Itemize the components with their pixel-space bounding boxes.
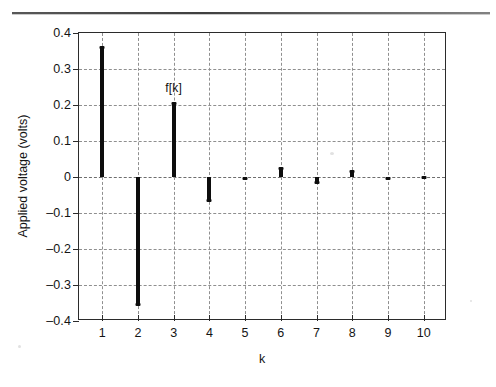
series-annotation-label: f[k] (165, 81, 182, 95)
gridline-horizontal (79, 69, 445, 70)
stem-bar (136, 177, 140, 305)
y-tick-label: –0.2 (46, 242, 71, 256)
gridline-horizontal (79, 285, 445, 286)
gridline-horizontal (79, 105, 445, 106)
x-tick (281, 315, 282, 321)
y-tick (73, 249, 79, 250)
x-tick (317, 315, 318, 321)
gridline-vertical (388, 33, 389, 319)
y-tick (73, 321, 79, 322)
x-tick (424, 315, 425, 321)
gridline-horizontal (79, 249, 445, 250)
scan-speckle (330, 152, 334, 155)
stem-marker (207, 199, 212, 202)
figure-page: Applied voltage (volts) f[k] 0.40.30.20.… (0, 0, 496, 387)
x-axis-title: k (78, 352, 446, 366)
x-tick-label: 1 (99, 326, 106, 340)
x-tick-label: 4 (206, 326, 213, 340)
x-tick-label: 9 (385, 326, 392, 340)
y-tick (73, 33, 79, 34)
y-tick-label: 0.4 (53, 26, 71, 40)
stem-bar (100, 47, 104, 177)
x-tick (209, 315, 210, 321)
stem-marker (135, 303, 140, 306)
stem-marker (314, 181, 319, 184)
plot-area: f[k] 0.40.30.20.10–0.1–0.2–0.3–0.4 12345… (78, 32, 446, 320)
stem-marker (350, 170, 355, 173)
y-tick-label: 0.1 (53, 134, 71, 148)
y-tick-label: 0 (64, 170, 71, 184)
y-tick-label: –0.3 (46, 278, 71, 292)
gridline-horizontal (79, 141, 445, 142)
stem-marker (171, 102, 176, 105)
x-tick-label: 6 (277, 326, 284, 340)
y-tick-label: –0.1 (46, 206, 71, 220)
x-tick (138, 315, 139, 321)
gridline-vertical (209, 33, 210, 319)
y-axis-title: Applied voltage (volts) (14, 32, 32, 320)
y-axis-title-text: Applied voltage (volts) (16, 115, 30, 238)
x-tick-label: 5 (242, 326, 249, 340)
stem-bar (172, 103, 176, 177)
y-tick (73, 141, 79, 142)
gridline-vertical (245, 33, 246, 319)
y-tick-label: 0.3 (53, 62, 71, 76)
x-tick (388, 315, 389, 321)
y-tick (73, 177, 79, 178)
stem-marker (386, 177, 391, 180)
x-tick-label: 10 (417, 326, 431, 340)
y-tick-label: –0.4 (46, 314, 71, 328)
stem-marker (421, 176, 426, 179)
y-tick (73, 213, 79, 214)
plot-inner: f[k] (79, 33, 445, 319)
gridline-horizontal (79, 213, 445, 214)
x-tick-label: 8 (349, 326, 356, 340)
x-tick (245, 315, 246, 321)
y-tick (73, 69, 79, 70)
x-tick-label: 2 (134, 326, 141, 340)
stem-bar (207, 177, 211, 200)
x-tick (102, 315, 103, 321)
scan-speckle (470, 300, 472, 302)
x-tick-label: 7 (313, 326, 320, 340)
x-tick (174, 315, 175, 321)
stem-plot-figure: Applied voltage (volts) f[k] 0.40.30.20.… (0, 0, 496, 387)
y-tick (73, 105, 79, 106)
stem-marker (100, 46, 105, 49)
y-tick-label: 0.2 (53, 98, 71, 112)
stem-marker (243, 177, 248, 180)
y-tick (73, 285, 79, 286)
scan-speckle (18, 345, 21, 348)
x-tick-label: 3 (170, 326, 177, 340)
gridline-vertical (317, 33, 318, 319)
x-tick (352, 315, 353, 321)
stem-marker (278, 167, 283, 170)
